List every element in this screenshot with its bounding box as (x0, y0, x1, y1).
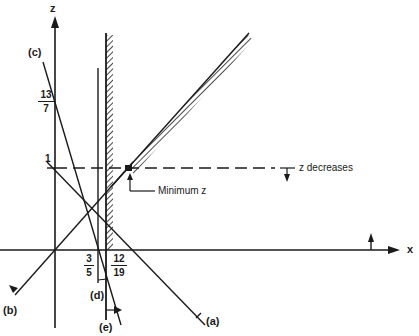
down-arrow-icon (284, 174, 290, 182)
tick-z-13-7: 13 7 (38, 90, 54, 114)
diagonal-boundary (111, 33, 249, 187)
tick-x-3-5: 3 5 (84, 254, 94, 278)
up-arrow-icon (368, 233, 374, 242)
label-d: (d) (90, 290, 104, 301)
z-decreases-label: z decreases (299, 163, 353, 173)
x-axis-arrow-icon (388, 246, 400, 254)
z-axis-label: z (50, 3, 56, 14)
b-direction-arrow-icon (9, 285, 18, 293)
tick-x-12-19: 12 19 (111, 254, 127, 278)
minimum-z-label: Minimum z (158, 186, 206, 196)
lp-feasible-region-diagram (0, 0, 419, 336)
label-a: (a) (206, 316, 219, 327)
tick-z-one: 1 (45, 154, 51, 164)
label-c: (c) (28, 47, 41, 58)
z-axis (51, 16, 59, 328)
label-e: (e) (99, 322, 112, 333)
hatch-diagonal (128, 34, 253, 174)
x-axis-label: x (407, 244, 413, 255)
hatch-e (106, 35, 113, 250)
z-axis-arrow-icon (51, 16, 59, 28)
label-b: (b) (3, 305, 17, 316)
minimum-point-marker (125, 165, 132, 171)
